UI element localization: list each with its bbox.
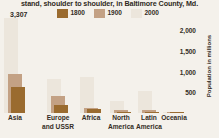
- bar-latin-america-1800: [145, 112, 159, 113]
- x-axis-label-line1: Europe: [47, 114, 70, 121]
- chart-figure: stand, shoulder to shoulder, in Baltimor…: [0, 0, 219, 138]
- legend-item-1800: 1800: [57, 9, 85, 18]
- chart-legend: 1800 1900 2000: [57, 9, 159, 18]
- y-axis-title: Population in millions: [203, 18, 215, 113]
- y-axis-tick: 2,000: [180, 27, 196, 34]
- x-axis-label-line1: Africa: [82, 114, 101, 121]
- y-axis-tick: 1,000: [180, 68, 196, 75]
- bar-africa-1800: [87, 109, 101, 113]
- legend-item-2000: 2000: [131, 9, 159, 18]
- x-axis-label-line2: and USSR: [36, 123, 80, 132]
- plot-area: [0, 18, 170, 113]
- bar-group: [110, 18, 132, 113]
- legend-label-1800: 1800: [71, 10, 85, 17]
- value-callout-asia-2000: 3,307: [10, 11, 28, 18]
- bar-asia-1800: [11, 87, 25, 113]
- chart-title: stand, shoulder to shoulder, in Baltimor…: [0, 0, 219, 8]
- x-axis-labels: AsiaEuropeand USSRAfricaNorthAmericaLati…: [0, 114, 175, 138]
- legend-swatch-1800: [57, 9, 68, 18]
- legend-swatch-1900: [94, 9, 105, 18]
- x-axis-label-line1: Asia: [8, 114, 22, 121]
- x-axis-label-line1: Oceania: [161, 114, 187, 121]
- y-axis-tick: 1,500: [180, 48, 196, 55]
- legend-item-1900: 1900: [94, 9, 122, 18]
- legend-label-2000: 2000: [144, 10, 158, 17]
- bar-group: [138, 18, 160, 113]
- y-axis: 2,0001,5001,000500: [170, 18, 200, 113]
- bar-oceania-1800: [170, 112, 184, 113]
- bar-north-america-1800: [117, 112, 131, 113]
- legend-swatch-2000: [131, 9, 142, 18]
- bar-europe-and-ussr-1800: [54, 105, 68, 113]
- x-axis-label-asia: Asia: [0, 114, 37, 123]
- y-axis-tick: 500: [185, 89, 196, 96]
- bar-group: [47, 18, 69, 113]
- legend-label-1900: 1900: [107, 10, 121, 17]
- x-axis-label-oceania: Oceania: [152, 114, 196, 123]
- bar-group: [80, 18, 102, 113]
- x-axis-label-line2: America: [127, 123, 171, 132]
- bar-group: [4, 18, 26, 113]
- y-axis-title-label: Population in millions: [206, 34, 212, 96]
